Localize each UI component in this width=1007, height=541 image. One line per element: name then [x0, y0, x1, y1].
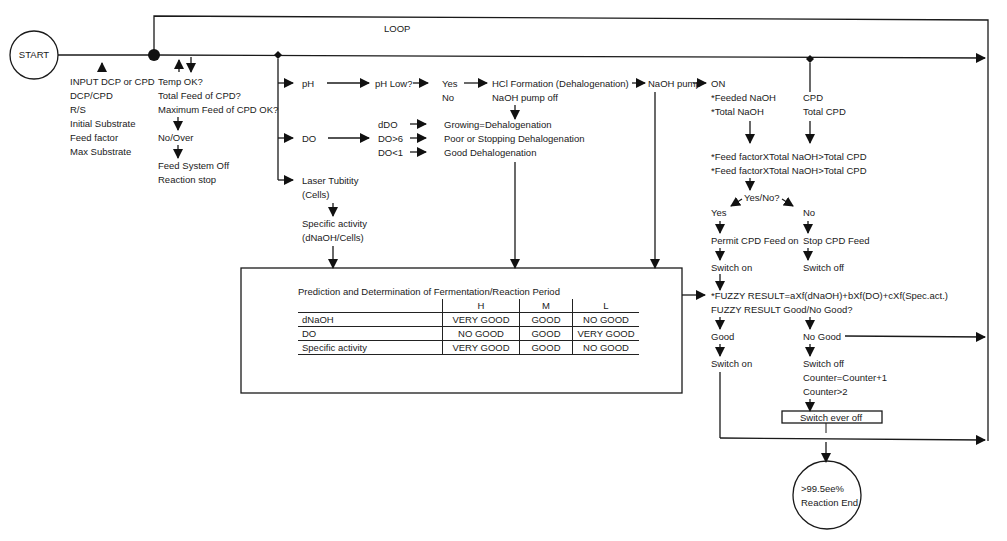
svg-text:Growing=Dehalogenation: Growing=Dehalogenation	[444, 119, 551, 130]
svg-text:CPD: CPD	[803, 92, 823, 103]
svg-text:Temp OK?: Temp OK?	[158, 76, 203, 87]
svg-text:Counter=Counter+1: Counter=Counter+1	[803, 372, 887, 383]
inputs-list: INPUT DCP or CPD DCP/CPD R/S Initial Sub…	[70, 76, 155, 157]
do-path: DO dDO DO>6 DO<1 Growing=Dehalogenation …	[302, 119, 585, 268]
svg-text:Specific activity: Specific activity	[302, 218, 367, 229]
svg-text:*Feeded NaOH: *Feeded NaOH	[711, 92, 776, 103]
svg-text:Initial Substrate: Initial Substrate	[70, 118, 135, 129]
svg-text:FUZZY RESULT Good/No Good?: FUZZY RESULT Good/No Good?	[711, 304, 853, 315]
svg-text:Max Substrate: Max Substrate	[70, 146, 131, 157]
svg-text:Switch on: Switch on	[711, 262, 752, 273]
svg-text:Maximum Feed of CPD OK?: Maximum Feed of CPD OK?	[158, 104, 278, 115]
svg-text:Switch off: Switch off	[803, 358, 844, 369]
svg-text:Switch ever off: Switch ever off	[800, 412, 862, 423]
svg-text:ON: ON	[711, 78, 725, 89]
naoh-path: *Feeded NaOH *Total NaOH CPD Total CPD *…	[711, 63, 870, 290]
svg-text:Switch on: Switch on	[711, 358, 752, 369]
svg-text:Good Dehalogenation: Good Dehalogenation	[444, 147, 536, 158]
svg-text:Feed System Off: Feed System Off	[158, 160, 229, 171]
svg-text:No/Over: No/Over	[158, 132, 193, 143]
svg-text:pH Low?: pH Low?	[375, 78, 413, 89]
svg-text:INPUT DCP or CPD: INPUT DCP or CPD	[70, 76, 155, 87]
table-header-m: M	[520, 299, 573, 313]
svg-text:Good: Good	[711, 331, 734, 342]
svg-text:dDO: dDO	[378, 119, 398, 130]
svg-text:Yes: Yes	[442, 78, 458, 89]
laser-path: Laser Tubitity (Cells) Specific activity…	[302, 175, 367, 268]
svg-text:DO<1: DO<1	[378, 147, 403, 158]
svg-text:(Cells): (Cells)	[302, 189, 329, 200]
svg-text:Laser Tubitity: Laser Tubitity	[302, 175, 359, 186]
table-row: dNaOH VERY GOOD GOOD NO GOOD	[298, 313, 639, 327]
svg-text:Feed factor: Feed factor	[70, 132, 118, 143]
flowchart: START LOOP INPUT DCP or CPD DCP/CPD R/S …	[0, 0, 1007, 541]
start-label: START	[19, 49, 49, 60]
table-header-blank	[298, 299, 443, 313]
table-header-h: H	[443, 299, 520, 313]
branch-junction-icon	[274, 51, 282, 59]
svg-text:HCl Formation (Dehalogenation): HCl Formation (Dehalogenation)	[492, 78, 629, 89]
svg-text:Yes/No?: Yes/No?	[744, 192, 780, 203]
svg-text:No: No	[803, 207, 815, 218]
cpd-junction-icon	[806, 55, 814, 63]
svg-text:Reaction End: Reaction End	[801, 497, 858, 508]
svg-text:>99.5ee%: >99.5ee%	[801, 483, 845, 494]
feed-checks: Temp OK? Total Feed of CPD? Maximum Feed…	[158, 76, 278, 185]
svg-text:Total CPD: Total CPD	[803, 106, 846, 117]
svg-text:DCP/CPD: DCP/CPD	[70, 90, 113, 101]
loop-junction-icon	[148, 49, 160, 61]
svg-text:*FUZZY RESULT=aXf(dNaOH)+bXf(D: *FUZZY RESULT=aXf(dNaOH)+bXf(DO)+cXf(Spe…	[711, 290, 948, 301]
start-node: START	[10, 31, 58, 79]
ph-path: pH pH Low? Yes HCl Formation (Dehalogena…	[302, 78, 725, 268]
table-row: DO NO GOOD GOOD VERY GOOD	[298, 327, 639, 341]
svg-text:DO>6: DO>6	[378, 133, 403, 144]
svg-text:(dNaOH/Cells): (dNaOH/Cells)	[302, 232, 364, 243]
svg-text:*Feed factorXTotal NaOH>Total: *Feed factorXTotal NaOH>Total CPD	[711, 165, 867, 176]
svg-text:*Total NaOH: *Total NaOH	[711, 106, 764, 117]
svg-text:DO: DO	[302, 133, 316, 144]
svg-text:Reaction stop: Reaction stop	[158, 174, 216, 185]
svg-text:No Good: No Good	[803, 331, 841, 342]
svg-text:NaOH pump: NaOH pump	[648, 78, 701, 89]
table-row: Specific activity VERY GOOD GOOD NO GOOD	[298, 341, 639, 355]
svg-text:Permit CPD Feed on: Permit CPD Feed on	[711, 235, 799, 246]
table-header-l: L	[573, 299, 640, 313]
svg-text:pH: pH	[302, 78, 314, 89]
loop-label: LOOP	[384, 23, 410, 34]
svg-text:No: No	[442, 92, 454, 103]
svg-text:Poor or Stopping Dehalogenatio: Poor or Stopping Dehalogenation	[444, 133, 585, 144]
svg-text:Yes: Yes	[711, 207, 727, 218]
svg-text:*Feed factorXTotal NaOH>Total: *Feed factorXTotal NaOH>Total CPD	[711, 151, 867, 162]
table-title: Prediction and Determination of Fermenta…	[298, 286, 639, 297]
svg-text:Switch off: Switch off	[803, 262, 844, 273]
svg-text:Stop CPD Feed: Stop CPD Feed	[803, 235, 870, 246]
svg-text:R/S: R/S	[70, 104, 86, 115]
svg-text:NaOH pump off: NaOH pump off	[492, 92, 558, 103]
svg-text:Counter>2: Counter>2	[803, 386, 848, 397]
fuzzy-section: *FUZZY RESULT=aXf(dNaOH)+bXf(DO)+cXf(Spe…	[711, 290, 985, 462]
end-node: >99.5ee% Reaction End	[793, 461, 861, 529]
svg-text:Total Feed of CPD?: Total Feed of CPD?	[158, 90, 241, 101]
prediction-table: Prediction and Determination of Fermenta…	[298, 286, 639, 355]
